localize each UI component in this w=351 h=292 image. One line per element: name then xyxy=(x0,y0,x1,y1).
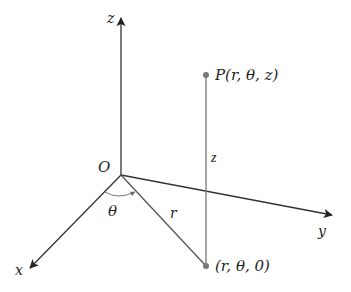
origin-label: O xyxy=(98,158,110,176)
theta-arc xyxy=(105,192,135,196)
point-base-dot xyxy=(203,263,209,269)
point-p-dot xyxy=(203,72,209,78)
radius-label: r xyxy=(170,205,178,221)
x-axis-label: x xyxy=(15,262,23,278)
cylindrical-coordinates-diagram: z x y O P(r, θ, z) (r, θ, 0) r z θ xyxy=(0,0,351,292)
point-p-label: P(r, θ, z) xyxy=(214,66,278,84)
y-axis-label: y xyxy=(317,223,327,239)
theta-label: θ xyxy=(108,202,117,220)
point-base-label: (r, θ, 0) xyxy=(215,257,270,275)
z-axis-label: z xyxy=(106,10,115,26)
height-label: z xyxy=(210,150,217,165)
x-axis xyxy=(30,175,121,268)
